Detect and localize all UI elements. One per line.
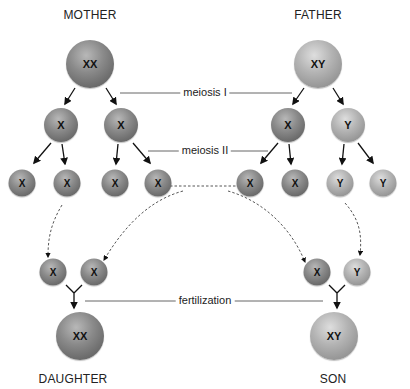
- father-m1-cell: X: [271, 108, 305, 142]
- daughter-gamete: X: [81, 259, 108, 286]
- mother-gamete: X: [145, 170, 172, 197]
- daughter-gamete: X: [40, 259, 67, 286]
- son-label: SON: [320, 372, 347, 386]
- father-gamete: Y: [327, 170, 354, 197]
- fertilization-label: fertilization: [176, 294, 235, 306]
- son-gamete: X: [304, 259, 331, 286]
- mother-m1-cell: X: [44, 108, 78, 142]
- mother-gamete: X: [54, 170, 81, 197]
- father-cell: XY: [294, 40, 342, 88]
- father-m1-cell: Y: [331, 108, 365, 142]
- mother-gamete: X: [102, 170, 129, 197]
- meiosis1-label: meiosis I: [180, 86, 229, 98]
- gamete-paths: [48, 186, 361, 262]
- father-gamete: X: [282, 170, 309, 197]
- father-label: FATHER: [294, 8, 342, 22]
- mother-cell: XX: [66, 40, 114, 88]
- father-gamete: Y: [370, 170, 397, 197]
- meiosis2-label: meiosis II: [179, 144, 231, 156]
- son-gamete: Y: [344, 259, 371, 286]
- mother-gamete: X: [9, 170, 36, 197]
- father-gamete: X: [237, 170, 264, 197]
- mother-label: MOTHER: [63, 8, 116, 22]
- son-cell: XY: [310, 312, 358, 360]
- daughter-label: DAUGHTER: [39, 372, 108, 386]
- daughter-cell: XX: [56, 312, 104, 360]
- mother-m1-cell: X: [104, 108, 138, 142]
